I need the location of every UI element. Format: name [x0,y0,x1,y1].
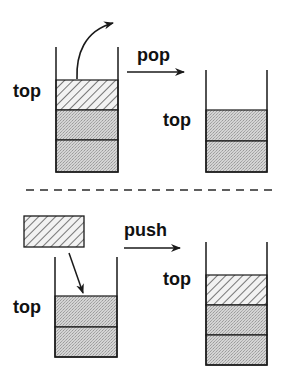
top-label-before-push: top [13,298,41,316]
stack-block-gray [206,110,267,141]
stack-block-gray [206,335,267,365]
stack-block-hatched [206,275,267,305]
stack-block-gray [206,141,267,172]
stack-block-gray [56,140,118,172]
stack-after-pop [206,70,267,172]
push-diagonal-arrow-icon [69,253,83,293]
pop-label: pop [137,46,170,64]
push-label: push [124,221,167,239]
top-label-before-pop: top [13,82,41,100]
stack-before-pop [56,47,118,172]
stack-block-gray [55,327,117,357]
stack-before-push [55,257,117,357]
stack-block-gray [55,296,117,327]
top-label-after-push: top [163,270,191,288]
stack-after-push [206,242,267,365]
incoming-block-hatched [24,216,84,247]
stack-block-hatched [56,80,118,110]
pop-curved-arrow-icon [77,23,113,79]
stack-block-gray [206,305,267,335]
top-label-after-pop: top [163,111,191,129]
stack-block-gray [56,110,118,140]
